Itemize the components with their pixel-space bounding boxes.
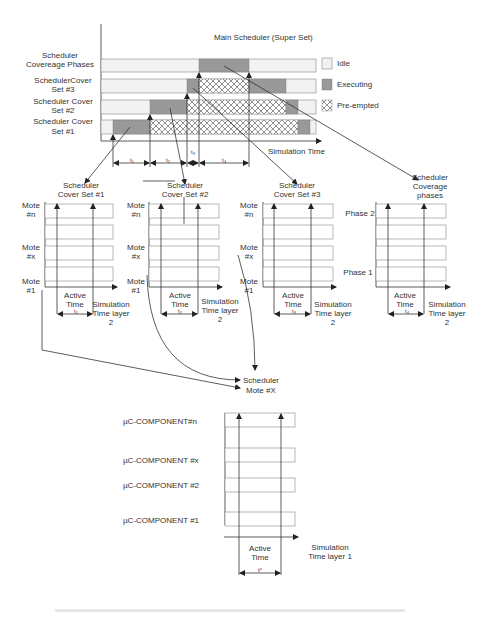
sub2-active-2: Time — [171, 300, 189, 309]
gantt-row-coverage-phases — [101, 59, 316, 72]
legend-idle-label: Idle — [337, 59, 350, 68]
legend-preempted-label: Pre-empted — [337, 101, 379, 110]
sub2-row-n-2: #n — [132, 210, 141, 219]
sub3-row-1-2: #1 — [245, 286, 254, 295]
legend-idle-swatch — [322, 58, 332, 69]
component-interval: tᶜ — [258, 567, 262, 573]
row-label-set1-2: Set #1 — [51, 127, 75, 136]
sub1-axis-1: Simulation — [92, 300, 129, 309]
sub1-active-1: Active — [64, 291, 86, 300]
sub3-row-x-1: Mote — [240, 243, 258, 252]
row-label-set1-1: Scheduler Cover — [33, 117, 93, 126]
sub2-axis-3: 2 — [218, 315, 223, 324]
sub3-row-x-2: #x — [245, 252, 253, 261]
main-scheduler-chart: Main Scheduler (Super Set) Simulation Ti… — [26, 24, 379, 167]
sub3-active-2: Time — [284, 300, 302, 309]
sub2-axis-2: Time layer — [201, 306, 238, 315]
row-label-set3-2: Set #3 — [51, 85, 75, 94]
sub3-axis-1: Simulation — [314, 300, 351, 309]
sub1-title-2: Cover Set #1 — [58, 190, 105, 199]
sub-chart-coverage-phases: Scheduler Coverage phases t₄ Phase 2 Pha… — [343, 173, 466, 327]
legend-preempted-swatch — [322, 100, 332, 111]
sub4-axis-3: 2 — [445, 318, 450, 327]
sub2-row-1-2: #1 — [132, 286, 141, 295]
sub3-row-1-1: Mote — [240, 277, 258, 286]
sub3-axis-3: 2 — [331, 318, 336, 327]
component-row-n: µC-COMPONENT#n — [123, 417, 197, 426]
sub3-title-2: Cover Set #3 — [274, 190, 321, 199]
sub2-axis-1: Simulation — [201, 297, 238, 306]
sub-chart-cover-set-2: Scheduler Cover Set #2 t₂ Mote #n Mote #… — [127, 181, 239, 324]
sub1-axis-3: 2 — [109, 318, 114, 327]
interval-t3: t₃ — [191, 149, 196, 155]
gantt-row-set3 — [101, 79, 316, 93]
sub2-row-1-1: Mote — [127, 277, 145, 286]
interval-t2: t₂ — [166, 157, 171, 163]
main-x-axis-label: Simulation Time — [268, 147, 325, 156]
sub4-title-3: phases — [417, 191, 443, 200]
sub1-row-x-2: #x — [27, 252, 35, 261]
row-label-coverage-phases-1: Scheduler — [42, 51, 78, 60]
sub4-title-1: Scheduler — [412, 173, 448, 182]
sub3-row-n-1: Mote — [240, 201, 258, 210]
multi-layer-scheduler-diagram: Main Scheduler (Super Set) Simulation Ti… — [0, 0, 483, 619]
component-row-1: µC-COMPONENT #1 — [123, 516, 200, 525]
sub1-row-n-2: #n — [27, 210, 36, 219]
sub2-row-x-1: Mote — [127, 243, 145, 252]
sub1-active-2: Time — [66, 300, 84, 309]
caption-faint-text — [55, 609, 405, 612]
component-axis-1: Simulation — [311, 543, 348, 552]
gantt-row-set1 — [101, 120, 316, 134]
component-active-2: Time — [251, 553, 269, 562]
legend-executing-label: Executing — [337, 80, 372, 89]
component-row-2: µC-COMPONENT #2 — [123, 481, 200, 490]
mote-target-label-2: Mote #X — [246, 386, 276, 395]
legend-executing-swatch — [322, 79, 332, 90]
sub3-active-1: Active — [282, 291, 304, 300]
sub1-row-1-2: #1 — [27, 286, 36, 295]
sub1-title-1: Scheduler — [63, 181, 99, 190]
sub1-row-x-1: Mote — [22, 243, 40, 252]
sub4-title-2: Coverage — [413, 182, 448, 191]
sub-chart-cover-set-3: Scheduler Cover Set #3 t₃ Mote #n Mote #… — [240, 181, 352, 327]
sub2-title-2: Cover Set #2 — [162, 190, 209, 199]
sub4-axis-2: Time layer — [428, 309, 465, 318]
sub3-axis-2: Time layer — [314, 309, 351, 318]
legend: Idle Executing Pre-empted — [322, 58, 379, 111]
sub2-active-1: Active — [169, 291, 191, 300]
component-active-1: Active — [249, 544, 271, 553]
row-label-set3-1: SchedulerCover — [34, 76, 92, 85]
sub3-row-n-2: #n — [245, 210, 254, 219]
sub1-row-1-1: Mote — [22, 277, 40, 286]
component-axis-2: Time layer 1 — [308, 552, 352, 561]
row-label-coverage-phases-2: Covereage Phases — [26, 60, 94, 69]
sub-chart-cover-set-1: Scheduler Cover Set #1 t₁ Mote #n Mote #… — [22, 181, 130, 327]
interval-t1: t₁ — [130, 157, 134, 163]
sub2-title-1: Scheduler — [167, 181, 203, 190]
main-chart-title: Main Scheduler (Super Set) — [214, 33, 313, 42]
sub4-active-1: Active — [394, 291, 416, 300]
sub2-row-n-1: Mote — [127, 201, 145, 210]
sub4-row-phase1: Phase 1 — [343, 268, 373, 277]
sub4-axis-1: Simulation — [428, 300, 465, 309]
component-row-x: µC-COMPONENT #x — [123, 456, 199, 465]
sub1-row-n-1: Mote — [22, 201, 40, 210]
sub1-axis-2: Time layer — [92, 309, 129, 318]
sub2-row-x-2: #x — [132, 252, 140, 261]
interval-t4: t₄ — [222, 157, 227, 163]
component-chart: tᶜ µC-COMPONENT#n µC-COMPONENT #x µC-COM… — [123, 413, 352, 575]
mote-target-label-1: Scheduler — [243, 376, 279, 385]
sub4-active-2: Time — [396, 300, 414, 309]
row-label-set2-1: Scheduler Cover — [33, 97, 93, 106]
sub4-row-phase2: Phase 2 — [345, 209, 375, 218]
row-label-set2-2: Set #2 — [51, 106, 75, 115]
sub3-title-1: Scheduler — [279, 181, 315, 190]
